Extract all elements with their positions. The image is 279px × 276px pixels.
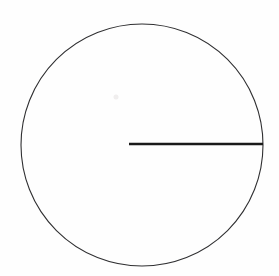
- canvas-background: [0, 0, 279, 276]
- figure-canvas: [0, 0, 279, 276]
- circle-diagram-svg: [0, 0, 279, 276]
- faint-scan-artifact: [114, 95, 119, 100]
